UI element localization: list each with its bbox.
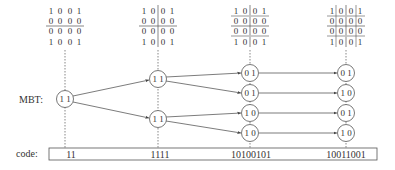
svg-text:0: 0	[358, 26, 363, 36]
svg-text:1: 1	[262, 6, 267, 16]
svg-text:0: 0	[170, 16, 175, 26]
svg-text:1: 1	[330, 6, 335, 16]
code-level-1: 11	[66, 149, 76, 160]
svg-text:0: 0	[68, 26, 73, 36]
svg-text:1: 1	[77, 37, 82, 47]
svg-text:1: 1	[77, 6, 82, 16]
node-root: 1 1	[57, 91, 74, 108]
svg-text:0: 0	[161, 37, 166, 47]
code-level-3: 10100101	[231, 149, 271, 160]
svg-text:0: 0	[349, 6, 354, 16]
node-l3-a: 0 1	[242, 65, 259, 82]
code-bar: 11 1111 10100101 10011001	[49, 148, 377, 160]
matrix-level-3: 1 0 0 1 0 0 0 0 0 0 0 0 1 0 0 1	[231, 5, 269, 47]
svg-text:0: 0	[161, 26, 166, 36]
node-l4-d: 1 0	[338, 125, 355, 142]
svg-text:0: 0	[253, 16, 258, 26]
svg-text:0: 0	[68, 16, 73, 26]
svg-text:0: 0	[58, 37, 63, 47]
node-l3-d: 1 0	[242, 125, 259, 142]
svg-text:0: 0	[330, 16, 335, 26]
node-l3-c: 1 0	[242, 105, 259, 122]
svg-text:0: 0	[349, 37, 354, 47]
svg-text:0: 0	[151, 16, 156, 26]
svg-text:0: 0	[142, 26, 147, 36]
svg-text:0: 0	[349, 26, 354, 36]
svg-text:1 1: 1 1	[59, 94, 70, 104]
node-l2-b: 1 1	[150, 111, 167, 128]
svg-text:0: 0	[243, 6, 248, 16]
svg-text:0: 0	[234, 26, 239, 36]
svg-text:0 1: 0 1	[340, 108, 351, 118]
svg-text:1 1: 1 1	[152, 114, 163, 124]
node-l4-a: 0 1	[338, 65, 355, 82]
svg-text:1: 1	[142, 6, 147, 16]
code-level-4: 10011001	[326, 149, 366, 160]
tree-edges	[73, 73, 337, 133]
svg-text:0: 0	[170, 26, 175, 36]
svg-text:0: 0	[58, 6, 63, 16]
matrix-level-4: 1 0 0 1 0 0 0 0 0 0 0 0 1 0 0 1	[327, 5, 365, 47]
svg-text:0: 0	[77, 26, 82, 36]
svg-text:0: 0	[161, 16, 166, 26]
code-label: code:	[16, 148, 38, 159]
level-guides	[65, 50, 346, 150]
svg-text:1: 1	[234, 6, 239, 16]
svg-text:0: 0	[339, 16, 344, 26]
node-l4-b: 1 0	[338, 85, 355, 102]
svg-text:0: 0	[49, 16, 54, 26]
svg-text:0: 0	[234, 16, 239, 26]
svg-text:0: 0	[58, 26, 63, 36]
svg-text:0: 0	[68, 6, 73, 16]
svg-text:0 1: 0 1	[244, 68, 255, 78]
svg-text:0: 0	[49, 26, 54, 36]
svg-text:0: 0	[253, 6, 258, 16]
mbt-label: MBT:	[19, 94, 43, 105]
svg-text:1 0: 1 0	[244, 128, 256, 138]
matrix-level-1: 1 0 0 1 0 0 0 0 0 0 0 0 1 0 0 1	[46, 6, 84, 47]
svg-text:0: 0	[330, 26, 335, 36]
svg-text:0: 0	[77, 16, 82, 26]
svg-text:0: 0	[161, 6, 166, 16]
code-level-2: 1111	[151, 149, 170, 160]
svg-text:1: 1	[170, 37, 175, 47]
svg-text:0: 0	[339, 6, 344, 16]
svg-text:1: 1	[170, 6, 175, 16]
svg-text:0: 0	[339, 37, 344, 47]
svg-text:0 1: 0 1	[244, 88, 255, 98]
svg-text:0: 0	[349, 16, 354, 26]
svg-text:0: 0	[243, 16, 248, 26]
svg-text:0: 0	[243, 26, 248, 36]
svg-text:1 1: 1 1	[152, 74, 163, 84]
node-l2-a: 1 1	[150, 71, 167, 88]
node-l3-b: 0 1	[242, 85, 259, 102]
svg-text:1: 1	[49, 37, 54, 47]
svg-text:0: 0	[58, 16, 63, 26]
svg-text:0: 0	[151, 26, 156, 36]
svg-text:1 0: 1 0	[340, 128, 352, 138]
svg-text:1: 1	[358, 6, 363, 16]
svg-text:0 1: 0 1	[340, 68, 351, 78]
svg-text:1: 1	[142, 37, 147, 47]
svg-text:0: 0	[253, 37, 258, 47]
tree-nodes: 1 1 1 1 1 1 0 1 0 1 1 0 1 0 0 1	[57, 65, 355, 142]
mbt-diagram: 1 0 0 1 0 0 0 0 0 0 0 0 1 0 0 1 1 0 0 1 …	[0, 0, 395, 170]
svg-text:1: 1	[358, 37, 363, 47]
svg-text:0: 0	[151, 6, 156, 16]
svg-text:0: 0	[151, 37, 156, 47]
svg-text:0: 0	[262, 26, 267, 36]
svg-text:1: 1	[49, 6, 54, 16]
svg-text:1 0: 1 0	[244, 108, 256, 118]
svg-text:0: 0	[243, 37, 248, 47]
svg-text:0: 0	[142, 16, 147, 26]
svg-text:1: 1	[330, 37, 335, 47]
node-l4-c: 0 1	[338, 105, 355, 122]
svg-text:1: 1	[234, 37, 239, 47]
svg-text:1 0: 1 0	[340, 88, 352, 98]
svg-text:0: 0	[358, 16, 363, 26]
svg-text:0: 0	[68, 37, 73, 47]
svg-text:0: 0	[253, 26, 258, 36]
svg-text:0: 0	[339, 26, 344, 36]
svg-text:0: 0	[262, 16, 267, 26]
matrix-level-2: 1 0 0 1 0 0 0 0 0 0 0 0 1 0 0 1	[139, 5, 177, 47]
